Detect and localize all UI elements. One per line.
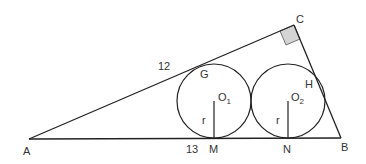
length-AG: 12 (158, 60, 170, 72)
geometry-figure: A B C G H M N O1 O2 r r 12 13 (0, 0, 366, 164)
label-C: C (296, 13, 304, 25)
right-angle-marker (280, 25, 300, 45)
label-O2: O2 (291, 91, 305, 106)
label-r1: r (202, 114, 206, 126)
side-AC (29, 25, 294, 139)
side-AB (29, 138, 341, 139)
label-N: N (283, 143, 291, 155)
label-O1: O1 (218, 91, 232, 106)
label-G: G (200, 68, 209, 80)
label-H: H (305, 78, 313, 90)
label-B: B (341, 141, 348, 153)
diagram-canvas: A B C G H M N O1 O2 r r 12 13 (0, 0, 366, 164)
label-M: M (209, 143, 218, 155)
label-r2: r (276, 114, 280, 126)
label-A: A (23, 145, 31, 157)
length-AM: 13 (186, 143, 198, 155)
side-CB (294, 25, 341, 138)
